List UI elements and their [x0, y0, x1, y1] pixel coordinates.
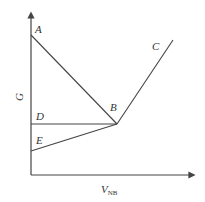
- label-c: C: [152, 40, 160, 52]
- label-d: D: [35, 110, 44, 122]
- label-a: A: [34, 23, 42, 35]
- segment-e-b: [31, 124, 117, 151]
- label-e: E: [35, 134, 43, 146]
- y-axis-label: G: [13, 93, 25, 101]
- segment-b-c: [117, 40, 173, 124]
- phase-diagram: A B C D E G VNB: [0, 0, 205, 202]
- diagram-canvas: A B C D E G VNB: [0, 0, 205, 202]
- x-axis-label: VNB: [101, 183, 118, 197]
- x-axis-label-sub: NB: [108, 189, 118, 197]
- label-b: B: [110, 101, 117, 113]
